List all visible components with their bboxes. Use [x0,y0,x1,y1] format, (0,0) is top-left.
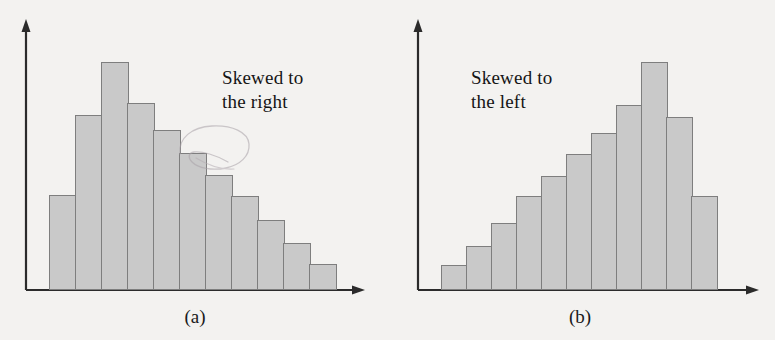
plot-area-b [385,0,775,305]
histogram-bar [49,195,77,290]
skew-annotation-a: Skewed to the right [222,66,303,114]
skew-annotation-b: Skewed to the left [471,66,552,114]
histogram-bar [616,105,643,290]
histogram-bar [641,62,668,290]
histogram-bar [153,130,181,290]
histogram-bar [179,153,207,290]
histogram-bar [441,265,468,290]
histogram-bar [127,103,155,290]
chart-panel-a: (a) Skewed to the right [0,0,390,340]
chart-panel-b: (b) Skewed to the left [385,0,775,340]
histogram-bar [231,196,259,290]
histogram-bar [591,133,618,290]
histogram-bar [491,223,518,290]
histogram-bar [516,196,543,290]
histogram-bars-a [0,0,390,305]
histogram-bar [691,196,718,290]
plot-area-a [0,0,390,305]
histogram-bar [75,115,103,290]
histogram-bar [283,243,311,290]
histogram-bar [466,246,493,290]
histogram-bar [101,62,129,290]
histogram-bars-b [385,0,775,305]
histogram-bar [541,176,568,290]
panel-caption-a: (a) [0,306,390,328]
histogram-bar [309,264,337,290]
histogram-bar [257,220,285,290]
histogram-bar [205,175,233,290]
figure-container: (a) Skewed to the right (b) Skewed to th… [0,0,775,340]
histogram-bar [566,154,593,290]
panel-caption-b: (b) [385,306,775,328]
histogram-bar [666,117,693,290]
